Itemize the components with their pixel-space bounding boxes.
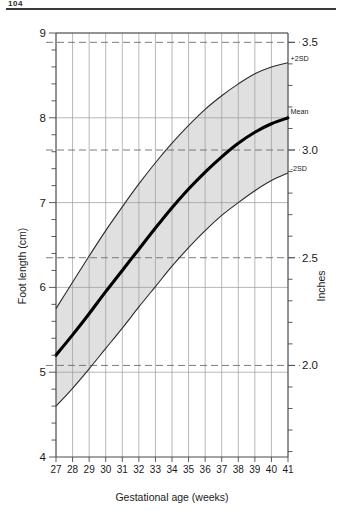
right-axis-tick-labels: 3.53.02.52.0: [302, 36, 318, 371]
curve-label-Mean: Mean: [291, 107, 309, 116]
chart-svg: 987654 3.53.02.52.0 27282930313233343536…: [0, 14, 341, 510]
y-axis-right-tick-label: 2.5: [302, 252, 318, 264]
y-axis-right-tick-label: 3.5: [302, 36, 318, 48]
left-axis-ticks: [49, 33, 56, 457]
curve-label-minus2SD: -2SD: [291, 164, 307, 173]
x-axis-tick-label: 35: [183, 464, 195, 475]
right-axis-ticks: [288, 42, 295, 451]
left-axis-tick-labels: 987654: [40, 27, 47, 463]
y-axis-title-right: Inches: [315, 271, 327, 302]
y-axis-right-tick-label: 2.0: [302, 359, 318, 371]
x-axis-tick-label: 37: [216, 464, 228, 475]
y-axis-title-left: Foot length (cm): [16, 228, 28, 304]
y-axis-tick-label: 8: [40, 112, 46, 124]
x-axis-tick-label: 34: [166, 464, 178, 475]
x-axis-tick-label: 40: [266, 464, 278, 475]
y-axis-tick-label: 7: [40, 197, 46, 209]
x-axis-tick-label: 39: [249, 464, 261, 475]
header-divider-rule: [6, 8, 336, 10]
x-axis-tick-label: 27: [50, 464, 62, 475]
page-root: 104 987654 3.53.02.52.0 2728293031323334…: [0, 0, 341, 510]
x-axis-tick-label: 30: [100, 464, 112, 475]
y-axis-right-tick-label: 3.0: [302, 144, 318, 156]
x-axis-tick-label: 32: [133, 464, 145, 475]
x-axis-title: Gestational age (weeks): [115, 491, 228, 503]
x-axis-tick-label: 28: [67, 464, 79, 475]
y-axis-tick-label: 5: [40, 366, 46, 378]
x-axis-tick-label: 33: [150, 464, 162, 475]
y-axis-tick-label: 9: [40, 27, 46, 39]
curve-label-plus2SD: +2SD: [291, 54, 309, 63]
x-axis-tick-label: 38: [233, 464, 245, 475]
foot-length-growth-chart: 987654 3.53.02.52.0 27282930313233343536…: [0, 14, 341, 510]
page-number-crumb: 104: [8, 0, 34, 6]
y-axis-tick-label: 4: [40, 451, 47, 463]
x-axis-tick-label: 29: [84, 464, 96, 475]
x-axis-tick-label: 31: [117, 464, 129, 475]
bottom-axis-ticks: [56, 457, 288, 462]
x-axis-tick-label: 41: [282, 464, 294, 475]
y-axis-tick-label: 6: [40, 281, 46, 293]
bottom-axis-tick-labels: 272829303132333435363738394041: [50, 464, 294, 475]
x-axis-tick-label: 36: [200, 464, 212, 475]
